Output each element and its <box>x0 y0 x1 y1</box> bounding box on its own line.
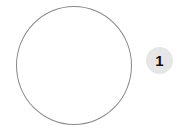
number-badge: 1 <box>146 47 173 74</box>
circle-shape <box>16 6 132 125</box>
badge-label: 1 <box>155 52 163 69</box>
